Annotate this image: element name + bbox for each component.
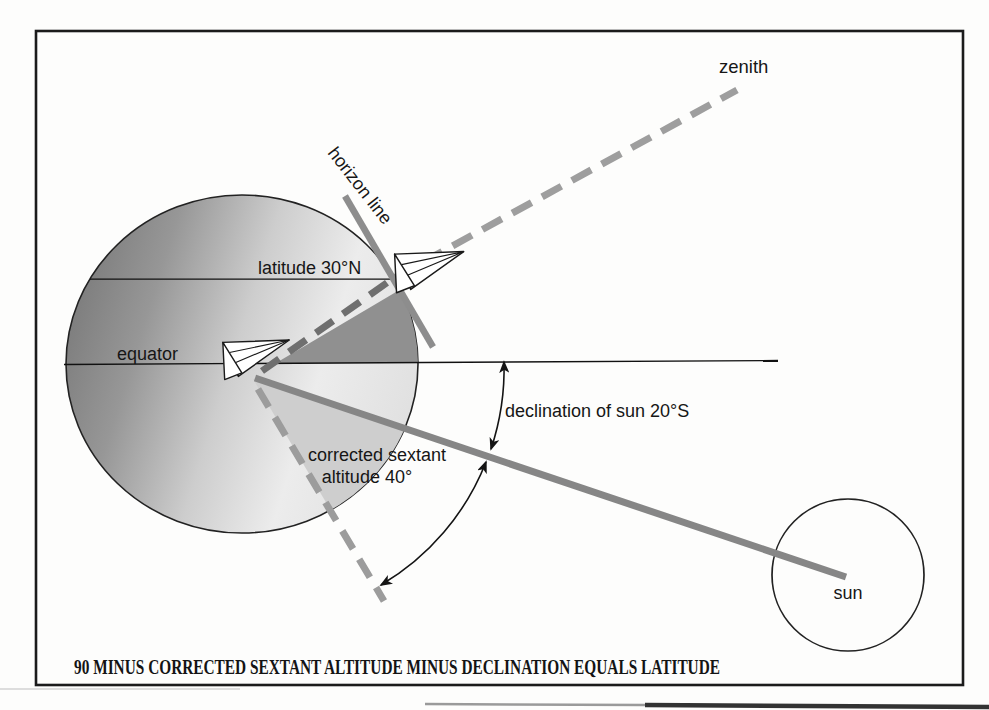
sailboat-icon [391,243,469,292]
latitude-label: latitude 30°N [258,258,361,278]
zenith-label: zenith [719,56,768,77]
scan-artifact [425,704,645,705]
zenith-line [393,90,737,279]
sextant-altitude-label-line1: corrected sextant [308,445,446,465]
declination-label: declination of sun 20°S [505,401,689,421]
figure-caption: 90 MINUS CORRECTED SEXTANT ALTITUDE MINU… [74,656,720,678]
book-page: zenith horizon line latitude 30°N equato… [0,0,989,710]
declination-angle-arc [491,362,504,449]
horizon-line-label: horizon line [324,143,396,228]
scan-artifact [645,705,989,707]
sun-circle [772,499,924,651]
navigation-diagram: zenith horizon line latitude 30°N equato… [0,0,989,710]
sun-label: sun [833,583,862,603]
sextant-altitude-label-line2: altitude 40° [322,467,412,487]
equator-label: equator [117,344,178,364]
